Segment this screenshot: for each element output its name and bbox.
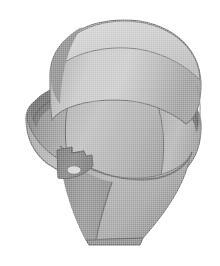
mechanical-part-figure: Upper cylindrical head (0, 0, 220, 266)
tab-hole (67, 166, 81, 174)
part-drawing-svg (0, 0, 220, 266)
